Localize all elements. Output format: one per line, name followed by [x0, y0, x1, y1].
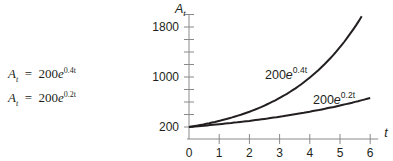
y-tick-label: 1000	[152, 70, 179, 84]
x-tick-label: 5	[337, 146, 344, 160]
y-axis-label: At	[174, 2, 186, 18]
series-label-02: 200e0.2t	[313, 90, 356, 107]
x-tick-label: 4	[306, 146, 313, 160]
x-tick-label: 6	[367, 146, 374, 160]
series-curve-02	[189, 98, 370, 127]
x-tick-label: 2	[246, 146, 253, 160]
exponential-growth-chart: 200100018000123456Att200e0.4t200e0.2t	[0, 0, 393, 161]
x-axis-label: t	[384, 126, 388, 140]
y-tick-label: 200	[159, 120, 179, 134]
x-tick-label: 3	[276, 146, 283, 160]
y-tick-label: 1800	[152, 20, 179, 34]
series-label-04: 200e0.4t	[265, 65, 308, 82]
x-tick-label: 0	[186, 146, 193, 160]
x-tick-label: 1	[216, 146, 223, 160]
